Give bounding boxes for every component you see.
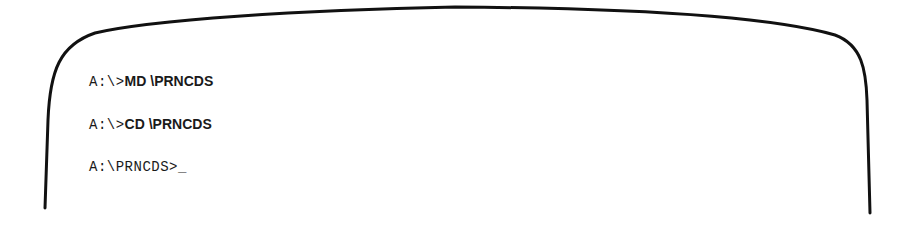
command-text: CD \PRNCDS <box>125 116 212 132</box>
terminal-line-md: A:\>MD \PRNCDS <box>89 73 213 90</box>
terminal-line-current-prompt[interactable]: A:\PRNCDS>_ <box>89 159 187 175</box>
terminal-line-cd: A:\>CD \PRNCDS <box>89 116 212 133</box>
prompt: A:\> <box>89 74 125 90</box>
prompt: A:\> <box>89 117 125 133</box>
prompt: A:\PRNCDS> <box>89 159 178 175</box>
cursor: _ <box>178 159 187 175</box>
command-text: MD \PRNCDS <box>125 73 214 89</box>
monitor-screen-frame <box>0 0 909 225</box>
